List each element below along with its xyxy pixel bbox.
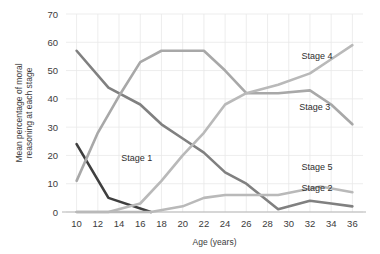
y-axis-title-line2: reasoning at each stage [24, 67, 34, 158]
y-axis-tick-label: 10 [47, 178, 58, 189]
x-axis-tick-label: 12 [93, 218, 104, 229]
x-axis-tick-label: 36 [347, 218, 358, 229]
x-axis-tick-label: 34 [326, 218, 337, 229]
series-label-stage-2: Stage 2 [301, 183, 332, 193]
series-label-stage-3: Stage 3 [299, 102, 330, 112]
series-label-stage-5: Stage 5 [301, 162, 332, 172]
y-axis-tick-label: 70 [47, 9, 58, 20]
series-label-stage-1: Stage 1 [121, 153, 152, 163]
x-axis-tick-label: 28 [262, 218, 273, 229]
y-axis-tick-label: 0 [53, 207, 58, 218]
series-label-stage-4: Stage 4 [301, 51, 332, 61]
x-axis-tick-label: 22 [199, 218, 210, 229]
y-axis-tick-label: 60 [47, 37, 58, 48]
moral-reasoning-line-chart: 0102030405060701012141618202224262830323… [0, 0, 380, 254]
y-axis-tick-label: 40 [47, 93, 58, 104]
x-axis-tick-label: 30 [283, 218, 294, 229]
x-axis-tick-label: 24 [220, 218, 231, 229]
y-axis-tick-label: 30 [47, 122, 58, 133]
x-axis-tick-label: 18 [156, 218, 167, 229]
x-axis-tick-label: 26 [241, 218, 252, 229]
x-axis-tick-label: 10 [71, 218, 82, 229]
y-axis-tick-label: 20 [47, 150, 58, 161]
y-axis-title-line1: Mean percentage of moral [14, 63, 24, 162]
x-axis-tick-label: 32 [305, 218, 316, 229]
x-axis-tick-label: 20 [177, 218, 188, 229]
x-axis-tick-label: 14 [114, 218, 125, 229]
x-axis-tick-label: 16 [135, 218, 146, 229]
chart-canvas: 0102030405060701012141618202224262830323… [0, 0, 380, 254]
x-axis-title: Age (years) [193, 237, 237, 247]
y-axis-tick-label: 50 [47, 65, 58, 76]
